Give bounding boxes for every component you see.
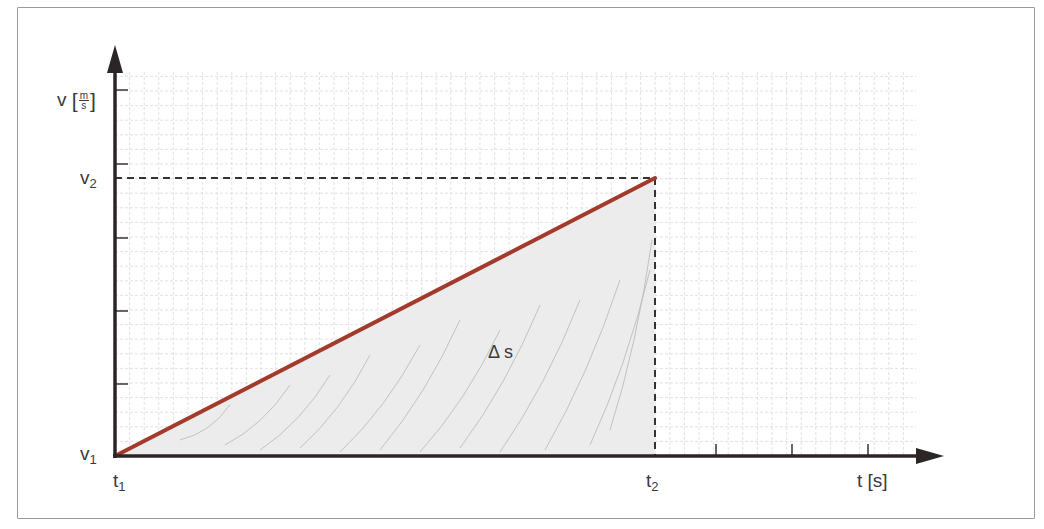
x-axis-label: t [s] [857, 471, 888, 490]
v2-subscript: 2 [90, 176, 97, 191]
unit-denominator: s [79, 101, 89, 110]
area-label: Δ s [488, 343, 513, 361]
t1-label: t1 [113, 471, 126, 493]
x-axis-arrow-icon [916, 448, 944, 464]
velocity-time-graph [0, 0, 1044, 529]
v1-base: v [80, 443, 90, 464]
y-axis-symbol: v [57, 89, 67, 110]
t2-subscript: 2 [651, 479, 658, 494]
t2-label: t2 [646, 471, 659, 493]
unit-bracket-open: [ [72, 89, 78, 112]
v1-subscript: 1 [90, 452, 97, 467]
v2-label: v2 [80, 168, 97, 190]
y-axis-arrow-icon [107, 45, 123, 73]
y-axis-label: v [ms] [57, 90, 96, 111]
unit-bracket-close: ] [90, 89, 96, 112]
t1-subscript: 1 [118, 479, 125, 494]
v1-label: v1 [80, 444, 97, 466]
unit-fraction: ms [79, 91, 89, 110]
v2-base: v [80, 167, 90, 188]
diagram-canvas: v [ms] v2 v1 t1 t2 t [s] Δ s [0, 0, 1044, 529]
